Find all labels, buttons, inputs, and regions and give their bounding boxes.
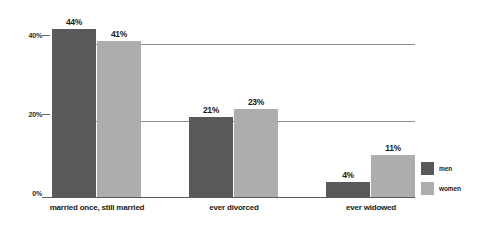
bar-value-label: 44%: [52, 17, 96, 27]
x-axis-baseline: [42, 197, 415, 198]
y-tick-mark-40: [42, 35, 50, 36]
legend: men women: [421, 162, 461, 202]
bar-men-ever-divorced[interactable]: 21%: [189, 117, 233, 197]
y-tick-label-0: 0%: [12, 190, 42, 197]
y-tick-label-40: 40%: [12, 32, 42, 39]
y-tick-label-20: 20%: [12, 111, 42, 118]
legend-item-women[interactable]: women: [421, 182, 461, 195]
y-tick-mark-20: [42, 114, 50, 115]
bar-men-ever-widowed[interactable]: 4%: [326, 182, 370, 197]
legend-swatch-men-icon: [421, 162, 434, 175]
plot-area: 44% 41% 21% 23% 4% 11%: [52, 14, 415, 197]
bar-women-ever-widowed[interactable]: 11%: [371, 155, 415, 197]
bar-men-married-once[interactable]: 44%: [52, 29, 96, 197]
legend-label-men: men: [439, 165, 452, 172]
legend-swatch-women-icon: [421, 182, 434, 195]
bar-value-label: 4%: [326, 170, 370, 180]
category-label-ever-widowed: ever widowed: [296, 203, 446, 212]
bar-group-ever-widowed: 4% 11%: [326, 14, 415, 197]
bar-group-ever-divorced: 21% 23%: [189, 14, 278, 197]
y-axis: 40% 20% 0%: [0, 0, 42, 197]
bar-women-married-once[interactable]: 41%: [97, 41, 141, 197]
bar-value-label: 23%: [234, 97, 278, 107]
bar-value-label: 11%: [371, 143, 415, 153]
legend-label-women: women: [439, 185, 461, 192]
bar-group-married-once: 44% 41%: [52, 14, 141, 197]
bar-value-label: 41%: [97, 29, 141, 39]
legend-item-men[interactable]: men: [421, 162, 461, 175]
bar-value-label: 21%: [189, 105, 233, 115]
category-label-ever-divorced: ever divorced: [159, 203, 309, 212]
bar-women-ever-divorced[interactable]: 23%: [234, 109, 278, 197]
category-label-married-once: married once, still married: [22, 203, 172, 212]
grouped-bar-chart: 40% 20% 0% 44% 41% 21% 23%: [0, 0, 482, 237]
